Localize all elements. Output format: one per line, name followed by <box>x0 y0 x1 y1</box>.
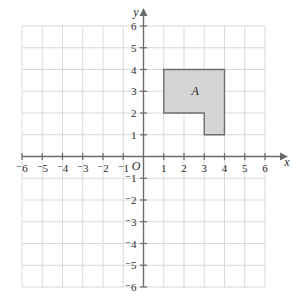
figure-container: A ⁻6⁻5⁻4⁻3⁻2⁻1123456654321⁻1⁻2⁻3⁻4⁻5⁻6 x… <box>0 0 296 304</box>
y-tick-label: 4 <box>131 64 137 76</box>
x-tick-label: 5 <box>242 162 248 174</box>
y-tick-label: ⁻1 <box>125 172 137 184</box>
x-tick-label: 2 <box>181 162 187 174</box>
y-tick-label: 5 <box>131 42 137 54</box>
y-tick-label: ⁻6 <box>125 281 137 293</box>
axes <box>22 8 288 287</box>
y-tick-label: ⁻2 <box>125 194 137 206</box>
x-tick-label: ⁻6 <box>16 162 28 174</box>
y-tick-label: 6 <box>131 20 137 32</box>
shape-label-a: A <box>190 84 199 98</box>
y-axis-arrowhead <box>140 8 148 16</box>
x-axis-label: x <box>283 155 290 169</box>
coordinate-plane: A ⁻6⁻5⁻4⁻3⁻2⁻1123456654321⁻1⁻2⁻3⁻4⁻5⁻6 x… <box>0 0 296 304</box>
y-tick-label: ⁻5 <box>125 259 137 271</box>
x-tick-label: ⁻5 <box>37 162 49 174</box>
y-tick-label: 3 <box>131 85 137 97</box>
y-tick-label: ⁻4 <box>125 238 137 250</box>
plotted-shapes: A <box>164 70 225 135</box>
x-tick-label: ⁻2 <box>97 162 109 174</box>
y-tick-label: ⁻3 <box>125 216 137 228</box>
shape-polygon-a <box>164 70 225 135</box>
x-tick-label: 6 <box>262 162 268 174</box>
x-tick-label: 3 <box>202 162 208 174</box>
x-tick-label: 1 <box>161 162 167 174</box>
x-tick-label: ⁻4 <box>57 162 69 174</box>
y-tick-label: 1 <box>131 129 137 141</box>
x-tick-label: ⁻3 <box>77 162 89 174</box>
y-tick-label: 2 <box>131 107 137 119</box>
y-axis-label: y <box>132 5 139 19</box>
origin-label: O <box>132 159 141 173</box>
x-tick-label: 4 <box>222 162 228 174</box>
